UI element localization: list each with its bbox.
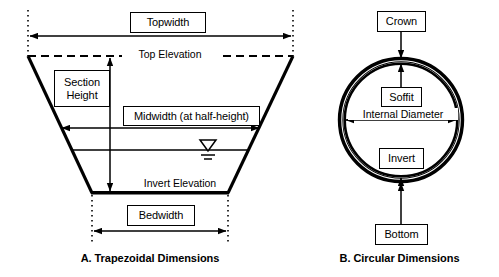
crown-label-box: Crown [377,11,426,32]
caption-circular: B. Circular Dimensions [300,252,499,264]
soffit-label: Soffit [389,91,413,104]
invert-label: Invert [388,152,415,165]
caption-trapezoidal: A. Trapezoidal Dimensions [0,252,300,264]
crown-label: Crown [386,15,417,28]
top-elevation-label: Top Elevation [122,48,218,60]
invert-elevation-label: Invert Elevation [134,177,226,189]
bedwidth-label: Bedwidth [139,209,183,222]
midwidth-label-box: Midwidth (at half-height) [123,106,260,126]
engineering-diagram: Topwidth Top Elevation Section Height Mi… [0,0,499,277]
soffit-label-box: Soffit [381,87,422,107]
bedwidth-label-box: Bedwidth [127,205,195,226]
section-height-label-line1: Section [64,76,100,89]
midwidth-label: Midwidth (at half-height) [134,110,249,123]
bottom-label-box: Bottom [375,224,428,245]
topwidth-label-box: Topwidth [130,12,206,33]
section-height-label-line2: Height [66,89,97,102]
internal-diameter-label: Internal Diameter [348,108,458,120]
section-height-label-box: Section Height [54,70,110,107]
invert-label-box: Invert [379,148,424,169]
bottom-label: Bottom [384,228,418,241]
topwidth-label: Topwidth [147,16,190,29]
